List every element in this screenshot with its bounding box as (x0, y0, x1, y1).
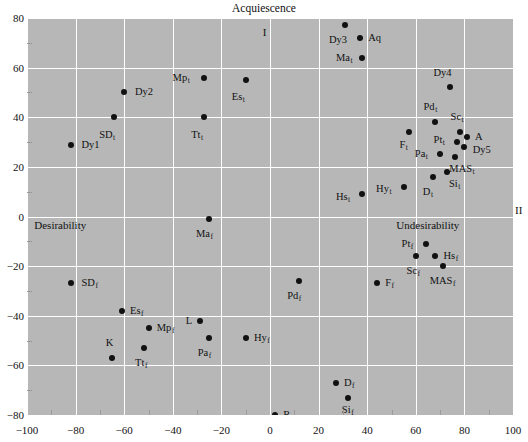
data-point-label: Mpt (173, 73, 190, 84)
x-axis-minor-tick (246, 410, 247, 415)
y-axis-tick-label: 20 (0, 161, 24, 173)
data-point-label: Ttt (191, 130, 203, 141)
gridline-horizontal (27, 217, 513, 218)
data-point-label: Hsf (444, 251, 459, 262)
data-point (437, 151, 443, 157)
data-point-label: Ptt (434, 135, 445, 146)
gridline-horizontal (27, 365, 513, 366)
data-point-label: Paf (198, 348, 212, 359)
data-point (119, 308, 125, 314)
data-point-label: Dy1 (81, 140, 99, 151)
data-point (464, 134, 470, 140)
data-point (447, 84, 453, 90)
data-point-label: Ff (385, 278, 394, 289)
x-axis-tick-label: −60 (116, 424, 133, 436)
data-point (296, 278, 302, 284)
x-axis-tick-label: 100 (505, 424, 522, 436)
data-point (111, 114, 117, 120)
gridline-horizontal (27, 117, 513, 118)
data-point (146, 325, 152, 331)
data-point (121, 89, 127, 95)
x-axis-minor-tick (100, 410, 101, 415)
y-axis-minor-tick (27, 142, 32, 143)
chart-title: Acquiescence (0, 2, 528, 14)
y-axis-tick-label: −80 (0, 409, 24, 421)
data-point-label: Pat (415, 149, 428, 160)
data-point-label: Hyf (254, 333, 270, 344)
x-axis-minor-tick (149, 410, 150, 415)
data-point-label: Mat (336, 53, 353, 64)
data-point-label: Aq (368, 33, 381, 44)
data-point-label: Hst (336, 192, 350, 203)
data-point (454, 139, 460, 145)
data-point (374, 280, 380, 286)
x-axis-tick-label: 20 (313, 424, 324, 436)
data-point (201, 75, 207, 81)
data-point (457, 129, 463, 135)
data-point (432, 119, 438, 125)
x-axis-tick-label: 40 (362, 424, 373, 436)
data-point-label: Hyt (376, 184, 391, 195)
data-point (243, 77, 249, 83)
data-point (452, 154, 458, 160)
y-axis-tick-label: −20 (0, 260, 24, 272)
data-point (68, 280, 74, 286)
data-point (333, 380, 339, 386)
quadrant-label-I: I (263, 27, 267, 38)
data-point-label: MASt (449, 164, 474, 175)
data-point (359, 191, 365, 197)
y-axis-minor-tick (27, 241, 32, 242)
data-point-label: Est (232, 92, 245, 103)
x-axis-tick-label: −100 (16, 424, 39, 436)
data-point-label: Sit (449, 179, 460, 190)
gridline-horizontal (27, 316, 513, 317)
x-axis-tick-label: −20 (213, 424, 230, 436)
data-point (68, 142, 74, 148)
quadrant-label-II: II (515, 204, 522, 216)
data-point-label: L (186, 316, 192, 327)
data-point-label: Pdf (287, 291, 301, 302)
data-point-label: MASf (430, 276, 456, 287)
x-axis-minor-tick (392, 410, 393, 415)
data-point-label: Mpf (157, 323, 175, 334)
data-point-label: A (475, 132, 483, 143)
x-axis-tick-label: 80 (459, 424, 470, 436)
data-point (406, 129, 412, 135)
y-axis-minor-tick (27, 192, 32, 193)
y-axis-minor-tick (27, 43, 32, 44)
data-point-label: Dy2 (135, 87, 153, 98)
data-point (401, 184, 407, 190)
data-point-label: Dy3 (329, 35, 347, 46)
y-axis-minor-tick (27, 341, 32, 342)
gridline-horizontal (27, 167, 513, 168)
data-point (141, 345, 147, 351)
y-axis-tick-label: −60 (0, 359, 24, 371)
data-point-label: Sct (451, 112, 464, 123)
y-axis-tick-label: 60 (0, 62, 24, 74)
data-point (423, 241, 429, 247)
data-point (413, 253, 419, 259)
x-axis-tick-label: −80 (67, 424, 84, 436)
data-point-label: Dy4 (433, 68, 451, 79)
data-point-label: Maf (196, 229, 213, 240)
data-point (461, 144, 467, 150)
data-point-label: Esf (130, 306, 144, 317)
axis-pole-undesirability: Undesirability (396, 220, 459, 231)
data-point (432, 253, 438, 259)
x-axis-minor-tick (51, 410, 52, 415)
data-point (206, 335, 212, 341)
x-axis-minor-tick (294, 410, 295, 415)
data-point-label: SDt (99, 130, 115, 141)
data-point (201, 114, 207, 120)
y-axis-tick-label: 80 (0, 12, 24, 24)
axis-pole-desirability: Desirability (34, 220, 86, 231)
data-point (197, 318, 203, 324)
data-point (109, 355, 115, 361)
gridline-horizontal (27, 18, 513, 19)
data-point (272, 412, 278, 415)
data-point-label: Dt (423, 187, 433, 198)
data-point-label: Pdt (424, 102, 438, 113)
data-point (430, 174, 436, 180)
data-point (359, 55, 365, 61)
plot-area: Dy1SDtDy2MptTttEstDy3AqMatDy4PdtSctAPttD… (27, 18, 513, 415)
